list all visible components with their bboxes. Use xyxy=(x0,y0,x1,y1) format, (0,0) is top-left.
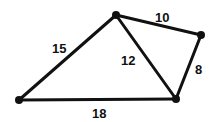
graph-edges xyxy=(0,0,215,122)
edge-weight-a-d: 15 xyxy=(52,42,66,55)
edge-weight-b-c: 8 xyxy=(195,63,202,76)
edge-d-c xyxy=(19,99,176,100)
graph-diagram: 10 8 12 15 18 xyxy=(0,0,215,122)
edge-weight-d-c: 18 xyxy=(92,107,106,120)
edge-weight-a-b: 10 xyxy=(155,11,169,24)
edge-weight-a-c: 12 xyxy=(121,54,135,67)
vertex-a xyxy=(112,11,120,19)
edge-a-d xyxy=(19,15,116,100)
vertex-c xyxy=(172,95,180,103)
vertex-d xyxy=(15,96,23,104)
vertex-b xyxy=(197,31,205,39)
